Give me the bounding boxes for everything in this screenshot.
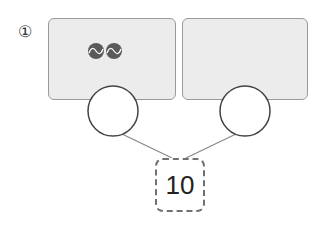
total-box: 10 xyxy=(155,158,205,212)
right-answer-circle[interactable] xyxy=(220,86,270,136)
connector-line-right xyxy=(186,134,236,158)
connector-line-left xyxy=(122,134,172,158)
left-answer-circle[interactable] xyxy=(88,86,138,136)
tennis-ball-icon xyxy=(88,43,104,59)
tennis-ball-icon xyxy=(106,43,122,59)
